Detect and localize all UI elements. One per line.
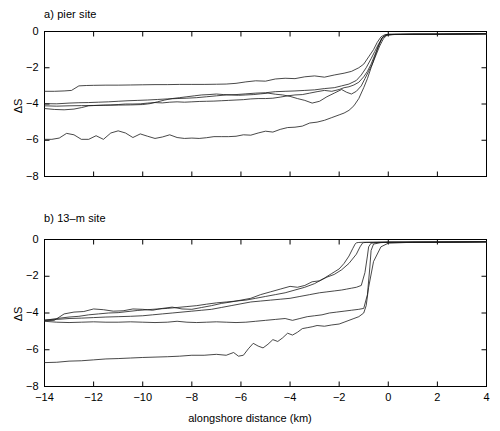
x-axis-label: alongshore distance (km): [0, 412, 500, 424]
x-tick-label: −10: [128, 391, 158, 403]
data-line-curve-5: [45, 242, 487, 363]
y-tick-label: −6: [13, 133, 39, 145]
panel-b-plot: [45, 240, 487, 387]
y-tick-label: −4: [13, 97, 39, 109]
figure-container: a) pier site b) 13–m site ΔS ΔS alongsho…: [0, 0, 500, 431]
y-tick-label: −4: [13, 306, 39, 318]
y-tick-label: 0: [13, 25, 39, 37]
x-tick-label: 4: [472, 391, 500, 403]
data-line-curve-5: [45, 34, 487, 139]
y-tick-label: −6: [13, 343, 39, 355]
x-tick-label: −6: [226, 391, 256, 403]
panel-a-plot: [45, 32, 487, 177]
data-line-curve-1: [45, 34, 487, 92]
y-tick-label: −2: [13, 269, 39, 281]
y-tick-label: −2: [13, 61, 39, 73]
x-tick-label: −12: [79, 391, 109, 403]
x-tick-label: −8: [177, 391, 207, 403]
data-line-curve-3: [45, 242, 487, 320]
y-tick-label: −8: [13, 170, 39, 182]
data-line-curve-1: [45, 242, 487, 321]
x-tick-label: −4: [275, 391, 305, 403]
panel-a-title: a) pier site: [44, 8, 97, 20]
x-tick-label: 2: [422, 391, 452, 403]
x-tick-label: −14: [30, 391, 60, 403]
x-tick-label: −2: [324, 391, 354, 403]
y-tick-label: 0: [13, 233, 39, 245]
data-line-curve-2: [45, 242, 487, 321]
x-tick-label: 0: [373, 391, 403, 403]
data-line-curve-3: [45, 34, 487, 110]
panel-b-title: b) 13–m site: [44, 212, 106, 224]
axes-frame: [45, 32, 487, 177]
data-line-curve-4: [45, 34, 487, 106]
